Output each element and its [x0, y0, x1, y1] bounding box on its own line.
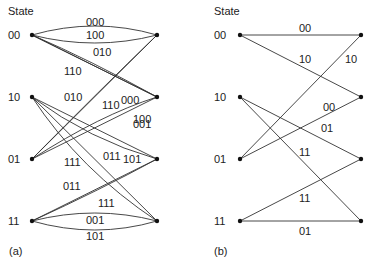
node-a-left-10	[30, 95, 34, 99]
state-label-b-00: 00	[214, 29, 226, 41]
node-b-left-10	[238, 95, 242, 99]
edge-label: 00	[323, 101, 335, 113]
edge-label: 110	[102, 99, 120, 111]
node-b-right-01	[359, 157, 363, 161]
node-a-left-11	[30, 219, 34, 223]
node-b-left-00	[238, 33, 242, 37]
edge-label: 011	[103, 150, 121, 162]
edge-label: 011	[63, 180, 81, 192]
caption-b: (b)	[214, 245, 227, 257]
edge-label: 01	[299, 225, 311, 237]
state-label-b-10: 10	[214, 91, 226, 103]
state-header-a: State	[8, 5, 34, 17]
edge-b-00-10	[240, 35, 361, 97]
state-label-a-00: 00	[8, 29, 20, 41]
edge-label: 100	[133, 113, 151, 125]
state-header-b: State	[214, 5, 240, 17]
edge-label: 01	[321, 122, 333, 134]
node-a-left-01	[30, 157, 34, 161]
state-label-b-01: 01	[214, 153, 226, 165]
edge-a-00-10-110	[32, 35, 157, 97]
edge-label: 001	[86, 214, 104, 226]
node-a-left-00	[30, 33, 34, 37]
node-a-right-01	[155, 157, 159, 161]
edge-label: 000	[86, 16, 104, 28]
panel-b: State 00 10 01 11 00 10 01 11 10 00 11 0…	[214, 5, 363, 257]
edge-label: 11	[299, 146, 310, 158]
edge-label: 111	[98, 197, 115, 209]
edge-label: 11	[299, 192, 310, 204]
node-a-right-11	[155, 219, 159, 223]
panel-a: State 00 10 01 11	[8, 5, 159, 257]
node-a-right-00	[155, 33, 159, 37]
edge-label: 110	[64, 65, 82, 77]
edge-label: 00	[299, 22, 311, 34]
edge-label: 101	[123, 153, 141, 165]
state-label-a-10: 10	[8, 91, 20, 103]
caption-a: (a)	[9, 245, 22, 257]
edge-a-11-01-011	[32, 159, 157, 221]
edge-label: 10	[299, 53, 311, 65]
node-a-right-10	[155, 95, 159, 99]
node-b-left-11	[238, 219, 242, 223]
edge-label: 100	[86, 29, 104, 41]
state-label-a-11: 11	[8, 215, 19, 227]
state-label-a-01: 01	[8, 153, 20, 165]
edge-label: 10	[345, 53, 357, 65]
edge-label: 010	[93, 46, 111, 58]
edge-b-11-01	[240, 159, 361, 221]
node-b-right-11	[359, 219, 363, 223]
trellis-diagram: State 00 10 01 11	[0, 0, 366, 266]
edge-label: 101	[86, 230, 104, 242]
state-label-b-11: 11	[214, 215, 225, 227]
edge-label: 111	[64, 156, 81, 168]
edge-label: 000	[121, 94, 139, 106]
node-b-right-00	[359, 33, 363, 37]
edge-label: 010	[64, 91, 82, 103]
node-b-left-01	[238, 157, 242, 161]
node-b-right-10	[359, 95, 363, 99]
